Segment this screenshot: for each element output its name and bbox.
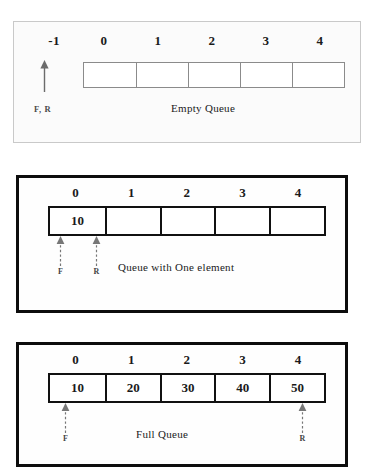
front-rear-pointer-arrow (38, 60, 51, 92)
queue-cell: 30 (160, 375, 215, 401)
queue-cell (214, 208, 269, 234)
panel-empty-queue: -1 0 1 2 3 4 F, R Empty Queue (13, 21, 361, 143)
rear-pointer-label: R (90, 267, 103, 276)
caption-empty-queue: Empty Queue (171, 102, 235, 114)
queue-cells-one-element: 10 (48, 206, 326, 236)
panel-one-element-queue: 0 1 2 3 4 10 F R Queue with One element (16, 175, 348, 313)
index-label: 3 (215, 185, 271, 201)
index-label: 3 (239, 33, 293, 49)
index-row-one-element: 0 1 2 3 4 (48, 185, 326, 201)
index-label: 0 (77, 33, 131, 49)
queue-cell: 10 (50, 375, 105, 401)
index-label: 4 (270, 185, 326, 201)
front-pointer-arrow: F (54, 236, 67, 266)
index-row-full: 0 1 2 3 4 (48, 352, 326, 368)
queue-cell (160, 208, 215, 234)
rear-pointer-arrow: R (296, 403, 309, 433)
caption-full-queue: Full Queue (136, 428, 188, 440)
queue-cells-full: 10 20 30 40 50 (48, 373, 326, 403)
caption-one-element-queue: Queue with One element (118, 261, 234, 273)
rear-pointer-arrow: R (90, 236, 103, 266)
queue-cell (105, 208, 160, 234)
rear-pointer-label: R (296, 434, 309, 443)
queue-cell: 10 (50, 208, 105, 234)
front-pointer-label: F (54, 267, 67, 276)
index-label: 0 (48, 352, 104, 368)
queue-cell (84, 63, 136, 87)
index-label: 1 (131, 33, 185, 49)
queue-cell (240, 63, 292, 87)
queue-cell (292, 63, 344, 87)
queue-cell (188, 63, 240, 87)
index-label: -1 (31, 33, 77, 49)
queue-cell: 50 (269, 375, 324, 401)
index-label: 0 (48, 185, 104, 201)
queue-cell (136, 63, 188, 87)
index-label: 2 (159, 185, 215, 201)
index-label: 1 (104, 352, 160, 368)
index-row-empty: -1 0 1 2 3 4 (31, 33, 347, 49)
queue-cells-empty (83, 62, 345, 88)
index-label: 2 (159, 352, 215, 368)
queue-cell: 40 (214, 375, 269, 401)
index-label: 4 (270, 352, 326, 368)
front-pointer-label: F (59, 434, 72, 443)
front-pointer-arrow: F (59, 403, 72, 433)
front-rear-pointer-label: F, R (34, 104, 51, 114)
panel-full-queue: 0 1 2 3 4 10 20 30 40 50 F R Full Queue (16, 342, 348, 467)
index-label: 3 (215, 352, 271, 368)
index-label: 4 (293, 33, 347, 49)
index-label: 1 (104, 185, 160, 201)
queue-cell: 20 (105, 375, 160, 401)
queue-cell (269, 208, 324, 234)
index-label: 2 (185, 33, 239, 49)
